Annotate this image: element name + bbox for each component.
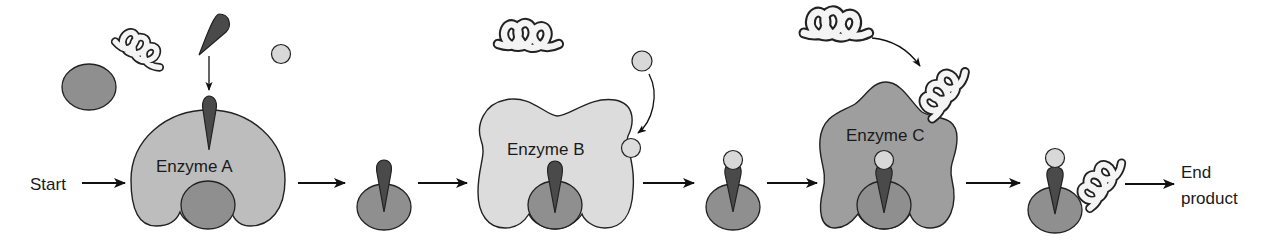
- enzyme-a: Enzyme A: [131, 96, 285, 229]
- arrow-coil-to-enzyme-c: [872, 38, 920, 66]
- free-coil-substrate-a: [114, 26, 169, 70]
- end-label-line-1: End: [1181, 163, 1211, 182]
- intermediate-1: [357, 160, 411, 230]
- intermediate-3: [1028, 149, 1124, 234]
- free-coil-substrate-b: [498, 23, 559, 48]
- arrow-ball-to-enzyme-b: [638, 74, 654, 133]
- enzyme-a-label: Enzyme A: [156, 157, 233, 176]
- end-label-line-2: product: [1181, 189, 1238, 208]
- pathway-diagram: Start Enzyme A Enzyme B: [0, 0, 1280, 249]
- enzyme-b: Enzyme B: [478, 99, 641, 229]
- free-ball-substrate-b: [632, 51, 652, 71]
- enzyme-b-label: Enzyme B: [507, 140, 584, 159]
- enzyme-c: Enzyme C: [820, 61, 968, 229]
- free-coil-substrate-c: [804, 11, 869, 37]
- intermediate-2: [706, 151, 760, 231]
- bound-oval-a: [181, 181, 235, 229]
- start-label: Start: [30, 175, 66, 194]
- bound-coil-c: [916, 61, 968, 121]
- bound-ball-b: [622, 139, 641, 158]
- free-cone-substrate: [199, 14, 229, 55]
- free-ball-substrate: [272, 45, 291, 64]
- free-oval-substrate: [62, 64, 116, 110]
- enzyme-c-label: Enzyme C: [846, 126, 924, 145]
- bound-ball-c: [875, 151, 894, 170]
